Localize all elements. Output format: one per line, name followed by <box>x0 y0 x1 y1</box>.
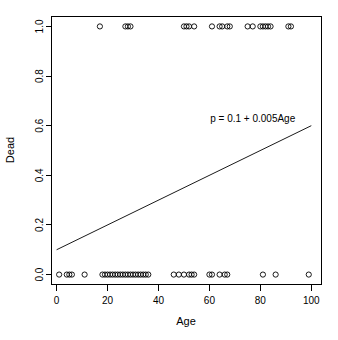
data-point <box>306 272 311 277</box>
data-point <box>209 24 214 29</box>
x-tick-label: 80 <box>255 295 267 306</box>
data-point <box>245 24 250 29</box>
data-point <box>97 24 102 29</box>
y-axis-tick-marks <box>46 26 52 274</box>
y-tick-label: 0.8 <box>34 69 45 83</box>
data-point <box>192 24 197 29</box>
data-point <box>171 272 176 277</box>
data-point <box>273 272 278 277</box>
x-tick-label: 40 <box>153 295 165 306</box>
x-tick-label: 0 <box>54 295 60 306</box>
scatter-plot-figure: 020406080100 0.00.20.40.60.81.0 p = 0.1 … <box>0 0 338 340</box>
y-tick-label: 0.0 <box>34 267 45 281</box>
y-axis-title: Dead <box>4 137 16 163</box>
data-point <box>82 272 87 277</box>
data-point <box>181 272 186 277</box>
regression-line <box>57 126 312 250</box>
data-point <box>57 272 62 277</box>
data-point <box>217 272 222 277</box>
x-tick-label: 60 <box>204 295 216 306</box>
x-axis-tick-labels: 020406080100 <box>54 295 320 306</box>
plot-canvas: 020406080100 0.00.20.40.60.81.0 p = 0.1 … <box>0 0 338 340</box>
equation-annotation: p = 0.1 + 0.005Age <box>210 113 296 124</box>
plot-frame-group <box>52 17 322 285</box>
x-tick-label: 20 <box>102 295 114 306</box>
x-tick-label: 100 <box>303 295 320 306</box>
data-point <box>260 272 265 277</box>
y-tick-label: 0.4 <box>34 168 45 182</box>
data-point <box>176 272 181 277</box>
y-tick-label: 1.0 <box>34 19 45 33</box>
data-points-group <box>57 24 312 277</box>
x-axis-tick-marks <box>57 285 312 291</box>
data-point <box>250 24 255 29</box>
y-tick-label: 0.6 <box>34 118 45 132</box>
y-axis-tick-labels: 0.00.20.40.60.81.0 <box>34 19 45 281</box>
y-tick-label: 0.2 <box>34 218 45 232</box>
x-axis-title: Age <box>176 315 196 327</box>
plot-frame <box>52 17 322 285</box>
